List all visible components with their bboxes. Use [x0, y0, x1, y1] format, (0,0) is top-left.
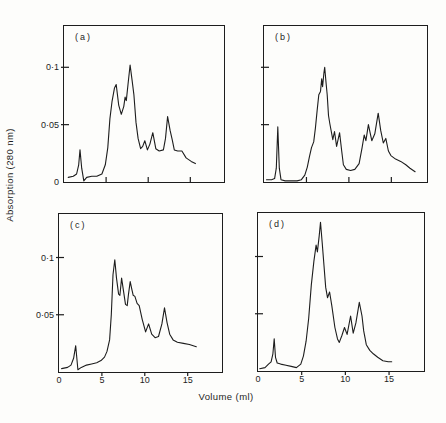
panel-b: (b) [263, 25, 428, 183]
y-tick-label: 0 [54, 177, 59, 187]
panel-d-curve [258, 213, 424, 371]
x-tick-label: 5 [99, 375, 104, 385]
y-tick-label: 0·1 [41, 253, 54, 263]
figure-chromatograms: Absorption (280 nm) Volume (ml) (a) 0·10… [0, 0, 446, 423]
absorption-trace-c [62, 260, 197, 370]
absorption-trace-a [68, 65, 195, 181]
x-axis-title: Volume (ml) [150, 391, 302, 402]
panel-a: (a) 0·10·050 [63, 25, 225, 183]
absorption-trace-d [260, 222, 392, 369]
x-tick-label: 0 [56, 375, 61, 385]
panel-c-curve [59, 214, 222, 372]
y-tick-label: 0·05 [36, 310, 54, 320]
x-tick-label: 10 [140, 375, 150, 385]
x-tick-label: 15 [384, 374, 394, 384]
x-tick-label: 15 [183, 375, 193, 385]
y-tick-label: 0·05 [41, 120, 59, 130]
panel-b-curve [264, 26, 427, 182]
panel-a-curve [64, 26, 224, 182]
x-tick-label: 0 [255, 374, 260, 384]
y-axis-title: Absorption (280 nm) [4, 119, 16, 231]
panel-d: (d) 051015 [257, 212, 425, 372]
x-tick-label: 10 [340, 374, 350, 384]
panel-c: (c) 0·10·05051015 [58, 213, 223, 373]
absorption-trace-b [267, 67, 416, 181]
x-tick-label: 5 [299, 374, 304, 384]
y-tick-label: 0·1 [46, 62, 59, 72]
